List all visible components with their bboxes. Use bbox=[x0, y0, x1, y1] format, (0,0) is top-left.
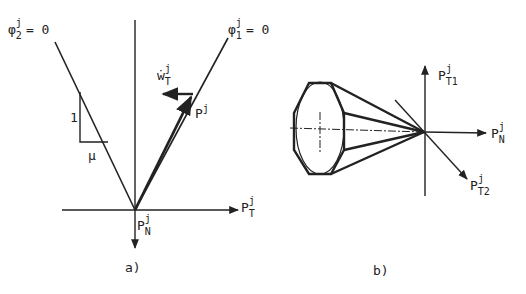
slope-run-label: μ bbox=[88, 148, 96, 163]
cone-left-boundary bbox=[55, 42, 135, 210]
t1-axis-label: PT1j bbox=[438, 63, 458, 87]
cone-axis-dashed bbox=[290, 128, 424, 132]
cone-edge bbox=[344, 113, 424, 132]
cone-left-label: φ2j= 0 bbox=[8, 17, 49, 41]
cone-edge bbox=[344, 132, 424, 150]
slope-triangle bbox=[80, 92, 108, 142]
normal-axis-label-b: PNj bbox=[491, 121, 505, 145]
slope-rise-label: 1 bbox=[70, 110, 78, 125]
caption-b: b) bbox=[373, 263, 389, 278]
normal-axis bbox=[424, 132, 486, 133]
force-vector bbox=[135, 97, 191, 210]
force-label: Pj bbox=[195, 103, 209, 121]
t2-axis-label: PT2j bbox=[470, 173, 490, 197]
cone-right-label: φ1j= 0 bbox=[228, 17, 269, 41]
normal-axis-label: PNj bbox=[137, 213, 151, 237]
tangential-axis-label: PTj bbox=[241, 195, 255, 219]
caption-a: a) bbox=[125, 260, 141, 275]
friction-cone-figure: φ2j= 0 φ1j= 0 ẇTj Pj PTj PNj 1 μ a) PT1j… bbox=[0, 0, 526, 294]
slip-velocity-label: ẇTj bbox=[157, 63, 171, 87]
